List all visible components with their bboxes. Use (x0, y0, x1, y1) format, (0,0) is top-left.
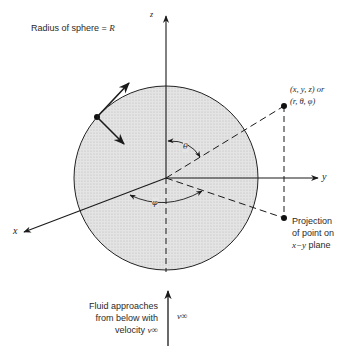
x-axis-label: x (13, 225, 17, 236)
radius-symbol: R (109, 23, 115, 33)
flow-note-line-3: velocity v∞ (86, 324, 158, 336)
phi-label: φ (152, 197, 158, 208)
y-axis-label: y (322, 171, 326, 182)
z-axis-label: z (150, 10, 153, 19)
sphere-radius-note: Radius of sphere = R (31, 23, 115, 34)
point-xyz (281, 103, 287, 109)
projection-line-1: Projection (292, 215, 334, 227)
velocity-label: v∞ (177, 311, 187, 322)
projection-line-3: x−y plane (292, 239, 334, 251)
flow-note: Fluid approaches from below with velocit… (86, 300, 158, 336)
projection-label: Projection of point on x−y plane (292, 215, 334, 251)
projection-line-2: of point on (292, 227, 334, 239)
sphere-radius-note-text: Radius of sphere = (31, 23, 109, 33)
flow-note-line-1: Fluid approaches (86, 300, 158, 312)
spherical-coordinates: (r, θ, φ) (290, 95, 324, 107)
xy-symbol: x−y (292, 240, 306, 250)
theta-label: θ (183, 141, 188, 152)
flow-note-velocity-symbol: v∞ (148, 325, 158, 335)
sphere-coordinate-diagram (0, 0, 355, 363)
point-projection (281, 215, 287, 221)
point-coordinates-label: (x, y, z) or (r, θ, φ) (290, 83, 324, 107)
flow-note-line-2: from below with (86, 312, 158, 324)
plane-text: plane (306, 240, 331, 250)
flow-note-velocity-text: velocity (115, 325, 148, 335)
cartesian-coordinates: (x, y, z) or (290, 83, 324, 95)
